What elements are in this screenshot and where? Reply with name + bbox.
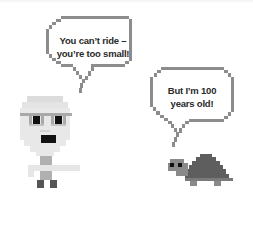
turtle-eye-left (170, 163, 174, 167)
old-man-character (20, 96, 80, 188)
mouth (41, 135, 56, 143)
left-eye (33, 116, 40, 124)
speech-line-2: years old! (150, 97, 234, 110)
speech-line-2: you’re too small! (54, 47, 132, 60)
turtle-character (168, 154, 233, 186)
right-eye (55, 116, 62, 124)
speech-line-1: You can’t ride – (54, 34, 132, 47)
turtle-speech-text: But I’m 100 years old! (150, 84, 234, 110)
speech-line-1: But I’m 100 (150, 84, 234, 97)
turtle-eye-right (178, 163, 182, 167)
old-man-speech-text: You can’t ride – you’re too small! (54, 34, 132, 60)
